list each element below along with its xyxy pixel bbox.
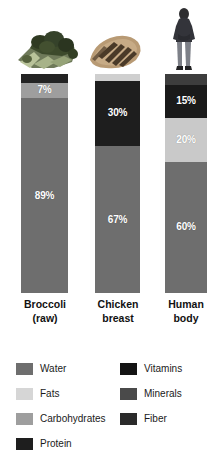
- category-label-line2: body: [152, 311, 218, 325]
- legend-swatch-vitamins: [120, 363, 137, 375]
- legend-item-minerals: Minerals: [120, 381, 214, 406]
- segment-value: 20%: [176, 135, 195, 145]
- segment-value: 30%: [108, 108, 127, 118]
- nutrition-composition-chart: 7% 89% 30% 67%: [0, 0, 218, 460]
- legend-label: Carbohydrates: [40, 414, 106, 424]
- legend-label: Minerals: [144, 389, 182, 399]
- column-human-body: 15% 20% 60%: [165, 74, 207, 293]
- segment-broccoli-water: 89%: [21, 98, 68, 293]
- segment-broccoli-carbohydrates: 7%: [21, 83, 68, 98]
- legend: Water Fats Carbohydrates Protein Vitamin…: [0, 356, 218, 456]
- human-body-photo: [168, 6, 200, 74]
- segment-human-fats: 20%: [165, 118, 207, 162]
- bar-columns: 7% 89% 30% 67%: [0, 74, 218, 294]
- segment-human-minerals: [165, 74, 207, 85]
- segment-value: 7%: [37, 85, 51, 95]
- legend-item-carbohydrates: Carbohydrates: [16, 406, 120, 431]
- legend-column-right: Vitamins Minerals Fiber: [120, 356, 214, 431]
- category-label-chicken: Chicken breast: [82, 297, 154, 325]
- chicken-breast-photo: [84, 28, 146, 74]
- legend-swatch-protein: [16, 438, 33, 450]
- legend-swatch-carbohydrates: [16, 413, 33, 425]
- category-label-human-body: Human body: [152, 297, 218, 325]
- category-label-line1: Broccoli: [9, 297, 81, 311]
- legend-column-left: Water Fats Carbohydrates Protein: [16, 356, 120, 456]
- category-label-broccoli: Broccoli (raw): [9, 297, 81, 325]
- legend-swatch-minerals: [120, 388, 137, 400]
- legend-label: Vitamins: [144, 364, 182, 374]
- legend-label: Water: [40, 364, 66, 374]
- stacked-bar-broccoli: 7% 89%: [21, 74, 68, 293]
- stacked-bar-chicken: 30% 67%: [95, 74, 140, 293]
- category-label-line1: Chicken: [82, 297, 154, 311]
- legend-swatch-fiber: [120, 413, 137, 425]
- legend-swatch-water: [16, 363, 33, 375]
- legend-item-fiber: Fiber: [120, 406, 214, 431]
- segment-human-protein: 15%: [165, 85, 207, 118]
- legend-swatch-fats: [16, 388, 33, 400]
- legend-label: Protein: [40, 439, 72, 449]
- segment-broccoli-fiber: [21, 74, 68, 83]
- category-label-line2: (raw): [9, 311, 81, 325]
- column-broccoli: 7% 89%: [21, 74, 68, 293]
- segment-value: 89%: [35, 191, 54, 201]
- segment-chicken-water: 67%: [95, 146, 140, 293]
- photo-row: [0, 0, 218, 74]
- segment-value: 15%: [176, 96, 195, 106]
- segment-value: 67%: [108, 215, 127, 225]
- stacked-bar-human-body: 15% 20% 60%: [165, 74, 207, 293]
- column-chicken: 30% 67%: [95, 74, 140, 293]
- category-label-line1: Human: [152, 297, 218, 311]
- legend-item-protein: Protein: [16, 431, 120, 456]
- segment-human-water: 60%: [165, 162, 207, 293]
- segment-value: 60%: [176, 222, 195, 232]
- segment-chicken-protein: 30%: [95, 81, 140, 147]
- category-labels: Broccoli (raw) Chicken breast Human body: [0, 297, 218, 343]
- broccoli-photo: [10, 18, 84, 74]
- legend-item-fats: Fats: [16, 381, 120, 406]
- legend-label: Fiber: [144, 414, 167, 424]
- legend-label: Fats: [40, 389, 59, 399]
- legend-item-water: Water: [16, 356, 120, 381]
- category-label-line2: breast: [82, 311, 154, 325]
- legend-item-vitamins: Vitamins: [120, 356, 214, 381]
